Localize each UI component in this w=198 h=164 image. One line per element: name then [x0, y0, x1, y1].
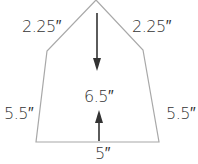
- height-arrow-up: [95, 110, 103, 141]
- roof-right-label: 2.25″: [132, 19, 171, 35]
- base-label: 5″: [95, 146, 110, 162]
- height-arrow-down: [93, 13, 101, 71]
- wall-right-label: 5.5″: [166, 106, 195, 122]
- roof-left-label: 2.25″: [22, 19, 61, 35]
- wall-left-label: 5.5″: [4, 106, 33, 122]
- height-label: 6.5″: [84, 89, 113, 105]
